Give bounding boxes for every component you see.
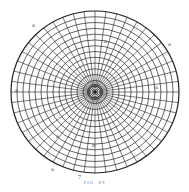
reference-label: a xyxy=(56,133,59,139)
reference-label: a xyxy=(32,22,35,28)
reference-label: a xyxy=(15,87,18,93)
reference-label: a xyxy=(104,38,107,44)
figure-caption: FIG. 85 xyxy=(0,180,189,185)
reference-label: a xyxy=(155,84,158,90)
reference-label: a xyxy=(51,166,54,172)
reference-label: a xyxy=(168,41,171,47)
radial-grid-figure xyxy=(0,0,189,192)
reference-label: a xyxy=(92,142,95,148)
hub-center xyxy=(93,90,97,94)
